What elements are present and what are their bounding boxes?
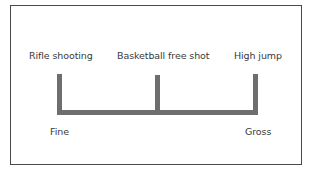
label-high-jump: High jump xyxy=(234,50,282,62)
label-fine: Fine xyxy=(50,126,69,138)
right-tick-bar xyxy=(253,74,258,115)
middle-tick-bar xyxy=(155,75,160,115)
label-rifle-shooting: Rifle shooting xyxy=(29,50,93,62)
continuum-axis-bar xyxy=(57,110,258,115)
label-basketball-free-shot: Basketball free shot xyxy=(117,50,209,62)
label-gross: Gross xyxy=(245,126,271,138)
left-tick-bar xyxy=(57,74,62,115)
